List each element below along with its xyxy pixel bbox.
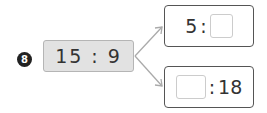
answer-blank-input[interactable] [210, 14, 233, 38]
ratio-colon: : [200, 15, 206, 37]
answer-blank-input[interactable] [176, 75, 206, 99]
ratio-right-value: 18 [218, 76, 242, 98]
target-ratio-box-2: : 18 [164, 66, 254, 108]
ratio-left-value: 5 [185, 15, 197, 37]
ratio-colon: : [209, 76, 215, 98]
target-ratio-box-1: 5 : [164, 5, 254, 47]
